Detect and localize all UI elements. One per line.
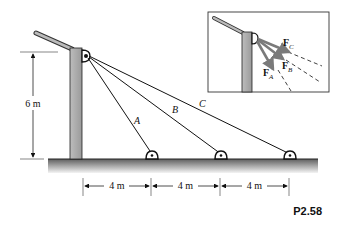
height-dimension-label: 6 m — [25, 98, 41, 109]
height-dimension: 6 m — [20, 52, 58, 159]
anchor-c — [284, 151, 296, 159]
boom-arm — [36, 33, 72, 49]
figure-number: P2.58 — [293, 205, 322, 217]
pole — [70, 48, 82, 159]
spacing-dimension-1: 4 m — [109, 180, 125, 191]
attachment-bracket — [82, 50, 90, 62]
diagram-canvas: A B C 6 m 4 m 4 m 4 m — [0, 0, 340, 232]
cable-c-label: C — [199, 98, 206, 109]
anchor-b — [215, 151, 227, 159]
spacing-dimensions: 4 m 4 m 4 m — [83, 178, 289, 196]
ground — [48, 159, 318, 173]
anchor-a — [146, 151, 158, 159]
cable-a — [88, 58, 152, 154]
cable-a-label: A — [133, 115, 141, 126]
spacing-dimension-3: 4 m — [247, 180, 263, 191]
cable-b-label: B — [172, 104, 178, 115]
inset-panel: FC FB FA — [208, 12, 329, 92]
spacing-dimension-2: 4 m — [178, 180, 194, 191]
